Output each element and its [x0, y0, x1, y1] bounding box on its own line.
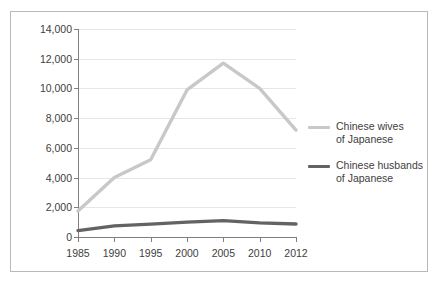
chart-frame: 02,0004,0006,0008,00010,00012,00014,000 … [10, 11, 428, 272]
legend-label: Chinese wives of Japanese [336, 120, 404, 146]
legend-entry[interactable]: Chinese husbands of Japanese [308, 159, 426, 185]
legend-line-swatch [308, 165, 330, 168]
legend-label: Chinese husbands of Japanese [336, 159, 423, 185]
series-line-0 [78, 63, 296, 211]
chart-legend: Chinese wives of JapaneseChinese husband… [308, 120, 426, 198]
legend-line-swatch [308, 126, 330, 129]
series-line-1 [78, 221, 296, 231]
legend-entry[interactable]: Chinese wives of Japanese [308, 120, 426, 146]
